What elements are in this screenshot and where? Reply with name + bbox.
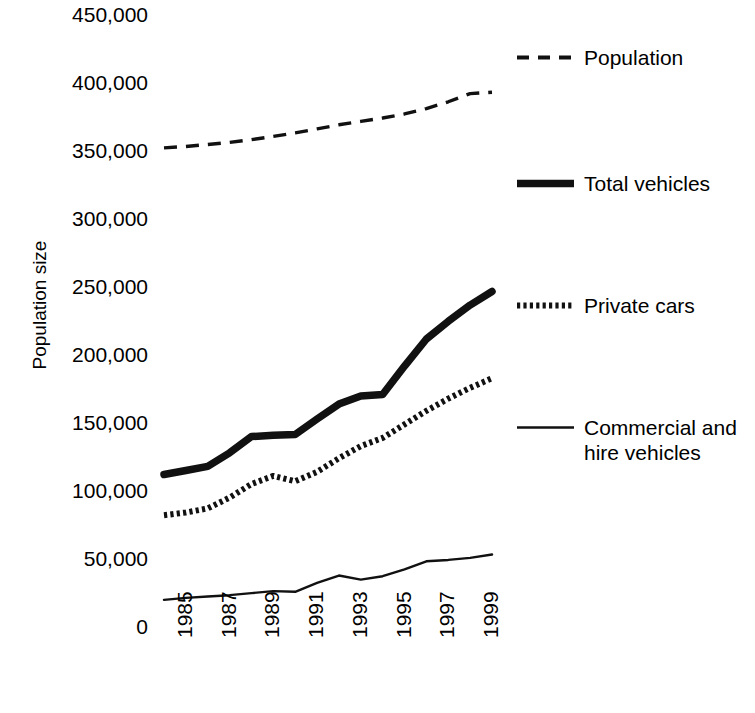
x-tick-1995: 1995 [393, 591, 414, 638]
chart-legend: Population Total vehicles Private cars [516, 0, 755, 713]
legend-entry-private-cars: Private cars [516, 293, 755, 318]
thick-line-swatch [516, 173, 576, 194]
legend-label-private-cars: Private cars [584, 293, 695, 318]
x-tick-1993: 1993 [349, 591, 370, 638]
x-tick-1997: 1997 [436, 591, 457, 638]
x-tick-1999: 1999 [480, 591, 501, 638]
legend-entry-total-vehicles: Total vehicles [516, 171, 755, 196]
x-tick-1989: 1989 [261, 591, 282, 638]
legend-label-commercial-hire: Commercial and hire vehicles [584, 415, 737, 465]
dashed-line-swatch [516, 47, 576, 68]
legend-label-total-vehicles: Total vehicles [584, 171, 710, 196]
x-tick-1991: 1991 [305, 591, 326, 638]
legend-entry-population: Population [516, 45, 755, 70]
thin-line-swatch [516, 417, 576, 438]
legend-entry-commercial-hire: Commercial and hire vehicles [516, 415, 755, 465]
x-tick-1985: 1985 [174, 591, 195, 638]
dotted-line-swatch [516, 295, 576, 316]
legend-label-population: Population [584, 45, 683, 70]
chart-figure: Population size 450,000 400,000 350,000 … [0, 0, 755, 713]
x-tick-1987: 1987 [218, 591, 239, 638]
